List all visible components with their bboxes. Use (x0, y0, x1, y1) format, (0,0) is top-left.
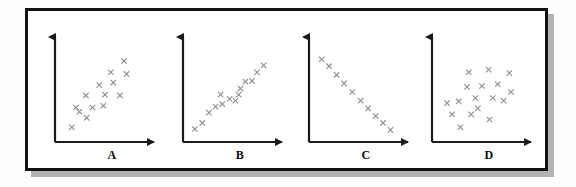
data-point (117, 93, 122, 98)
data-point (249, 78, 254, 83)
scatter-panel-b: B (180, 11, 300, 174)
data-point (192, 126, 197, 131)
data-point (388, 127, 393, 132)
data-point (319, 57, 324, 62)
data-point (495, 82, 500, 87)
plot-area-a (52, 11, 172, 151)
data-point (96, 82, 101, 87)
figure-frame: ABCD (25, 8, 548, 171)
data-point (507, 70, 512, 75)
data-point (200, 120, 205, 125)
data-point (77, 109, 82, 114)
data-point (490, 95, 495, 100)
data-point (121, 58, 126, 63)
data-point (101, 103, 106, 108)
data-point (350, 89, 355, 94)
data-point (334, 72, 339, 77)
data-point (238, 86, 243, 91)
data-point (254, 70, 259, 75)
data-point (220, 101, 225, 106)
panel-label-d: D (429, 148, 549, 163)
data-point (243, 79, 248, 84)
data-point (236, 92, 241, 97)
data-point (108, 70, 113, 75)
data-point (473, 95, 478, 100)
data-point (341, 81, 346, 86)
plot-area-c (306, 11, 426, 151)
plot-area-b (180, 11, 300, 151)
data-point (102, 92, 107, 97)
data-point (501, 98, 506, 103)
data-point (111, 80, 116, 85)
data-point (233, 98, 238, 103)
figure-canvas: ABCD (0, 0, 576, 187)
data-point (218, 92, 223, 97)
scatter-panel-c: C (306, 11, 426, 174)
data-point (469, 112, 474, 117)
data-point (69, 125, 74, 130)
data-point (124, 71, 129, 76)
data-point (508, 89, 513, 94)
data-point (73, 105, 78, 110)
data-point (227, 96, 232, 101)
panel-label-a: A (52, 148, 172, 163)
data-point (365, 106, 370, 111)
data-point (206, 110, 211, 115)
data-point (486, 67, 491, 72)
data-point (466, 70, 471, 75)
panel-label-b: B (180, 148, 300, 163)
data-point (261, 63, 266, 68)
scatter-panel-a: A (52, 11, 172, 174)
data-point (475, 106, 480, 111)
data-point (90, 105, 95, 110)
data-point (358, 98, 363, 103)
panel-label-c: C (306, 148, 426, 163)
data-point (326, 64, 331, 69)
data-point (487, 117, 492, 122)
data-point (464, 84, 469, 89)
data-point (449, 112, 454, 117)
data-point (444, 100, 449, 105)
scatter-panel-d: D (429, 11, 549, 174)
plot-area-d (429, 11, 549, 151)
data-point (458, 125, 463, 130)
data-point (83, 93, 88, 98)
data-point (84, 115, 89, 120)
data-point (373, 113, 378, 118)
data-point (456, 99, 461, 104)
data-point (479, 83, 484, 88)
data-point (380, 120, 385, 125)
data-point (213, 104, 218, 109)
